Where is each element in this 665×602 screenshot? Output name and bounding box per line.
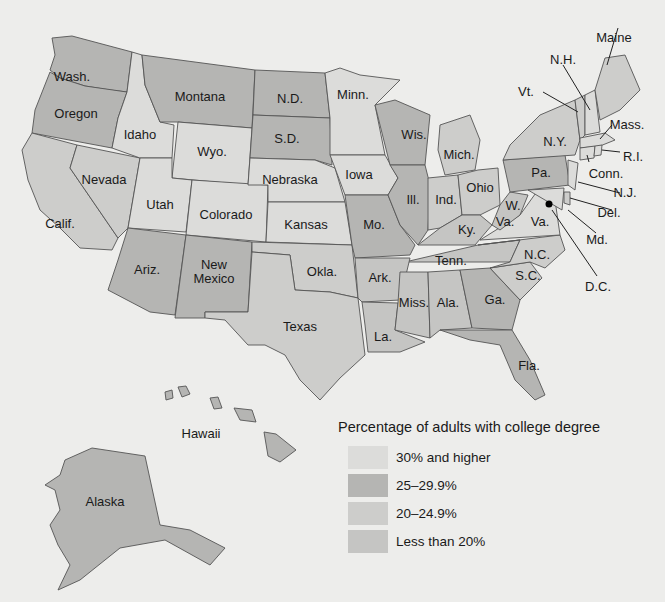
label-md: Md. xyxy=(586,233,608,247)
label-mo: Mo. xyxy=(363,218,385,232)
label-wva-w: W. xyxy=(505,199,520,213)
label-ny: N.Y. xyxy=(543,135,567,149)
legend-swatch xyxy=(348,502,388,525)
label-vt: Vt. xyxy=(518,85,534,99)
label-nebraska: Nebraska xyxy=(262,173,318,187)
label-iowa: Iowa xyxy=(345,168,372,182)
state-michigan[interactable] xyxy=(438,115,480,175)
legend-item: Less than 20% xyxy=(348,527,600,555)
state-maine[interactable] xyxy=(595,55,640,120)
label-utah: Utah xyxy=(146,198,173,212)
label-alaska: Alaska xyxy=(85,495,124,509)
label-nc: N.C. xyxy=(524,248,550,262)
label-fla: Fla. xyxy=(518,359,540,373)
label-ind: Ind. xyxy=(435,193,457,207)
label-mass: Mass. xyxy=(610,118,645,132)
state-rhode-island[interactable] xyxy=(594,145,602,156)
legend-label: Less than 20% xyxy=(396,534,485,549)
legend-swatch xyxy=(348,474,388,497)
label-ga: Ga. xyxy=(485,293,506,307)
label-nj: N.J. xyxy=(613,186,636,200)
label-idaho: Idaho xyxy=(124,128,157,142)
label-miss: Miss. xyxy=(399,296,429,310)
label-ill: Ill. xyxy=(407,193,420,207)
label-wash: Wash. xyxy=(54,70,90,84)
label-wis: Wis. xyxy=(401,128,426,142)
label-wva-va: Va. xyxy=(496,215,515,229)
label-nevada: Nevada xyxy=(82,173,127,187)
label-hawaii: Hawaii xyxy=(181,427,220,441)
label-ky: Ky. xyxy=(458,223,476,237)
legend-label: 30% and higher xyxy=(396,450,491,465)
label-new-mexico: New Mexico xyxy=(193,258,234,285)
label-la: La. xyxy=(374,330,392,344)
legend-title: Percentage of adults with college degree xyxy=(338,419,600,435)
legend-label: 25–29.9% xyxy=(396,478,457,493)
label-sc: S.C. xyxy=(515,269,540,283)
state-alaska[interactable] xyxy=(45,448,225,590)
label-sd: S.D. xyxy=(274,132,299,146)
label-ala: Ala. xyxy=(437,296,459,310)
label-ri: R.I. xyxy=(623,150,643,164)
legend-swatch xyxy=(348,530,388,553)
label-conn: Conn. xyxy=(589,167,624,181)
dc-marker xyxy=(546,201,553,208)
label-tenn: Tenn. xyxy=(435,254,467,268)
legend-item: 20–24.9% xyxy=(348,499,600,527)
label-wyo: Wyo. xyxy=(197,145,227,159)
label-montana: Montana xyxy=(175,90,226,104)
label-texas: Texas xyxy=(283,320,317,334)
state-new-jersey[interactable] xyxy=(568,160,578,190)
label-colorado: Colorado xyxy=(200,208,253,222)
label-kansas: Kansas xyxy=(284,218,327,232)
label-okla: Okla. xyxy=(307,265,337,279)
legend-label: 20–24.9% xyxy=(396,506,457,521)
label-nd: N.D. xyxy=(277,92,303,106)
label-dc: D.C. xyxy=(585,280,611,294)
label-mich: Mich. xyxy=(443,148,474,162)
state-delaware[interactable] xyxy=(564,192,570,205)
label-ohio: Ohio xyxy=(466,181,493,195)
state-hawaii[interactable] xyxy=(165,386,296,462)
legend-item: 25–29.9% xyxy=(348,471,600,499)
label-maine: Maine xyxy=(596,31,631,45)
label-nh: N.H. xyxy=(550,53,576,67)
label-oregon: Oregon xyxy=(54,107,97,121)
legend: Percentage of adults with college degree… xyxy=(338,419,600,555)
label-ariz: Ariz. xyxy=(134,263,160,277)
label-minn: Minn. xyxy=(337,88,369,102)
label-ark: Ark. xyxy=(368,271,391,285)
label-va: Va. xyxy=(531,215,550,229)
label-pa: Pa. xyxy=(531,166,551,180)
label-calif: Calif. xyxy=(45,217,75,231)
label-del: Del. xyxy=(597,206,620,220)
state-new-york[interactable] xyxy=(503,100,580,160)
legend-item: 30% and higher xyxy=(348,443,600,471)
legend-swatch xyxy=(348,446,388,469)
